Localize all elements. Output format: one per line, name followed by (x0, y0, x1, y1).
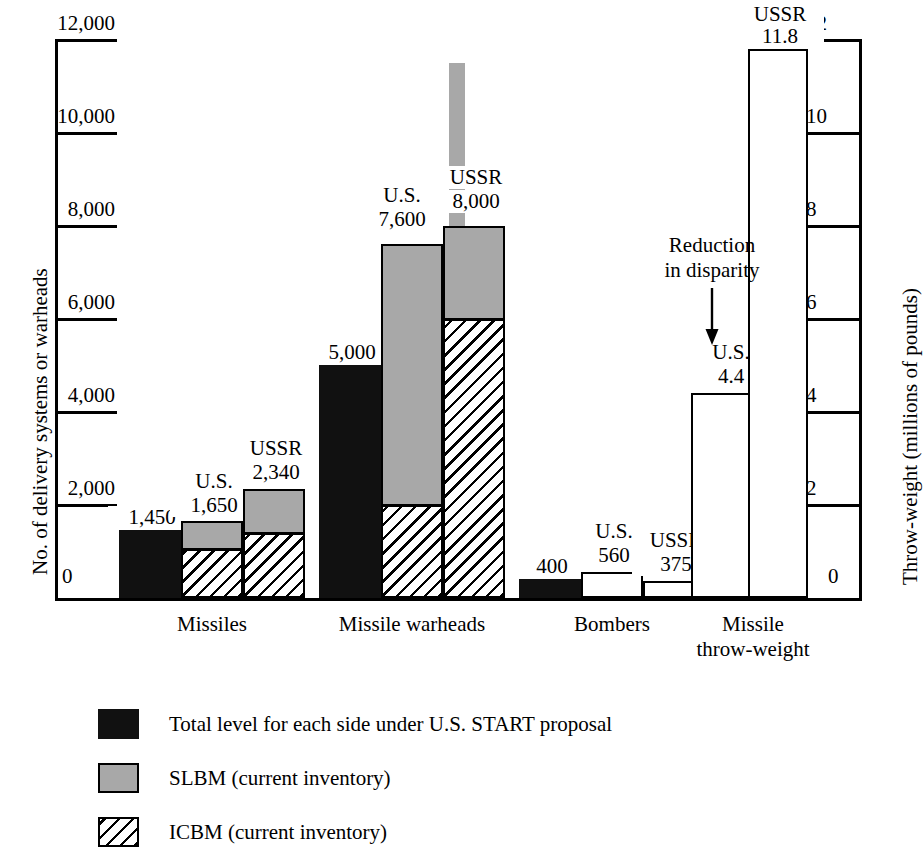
left-tick-8000 (55, 225, 117, 228)
left-tick-label-6000: 6,000 (0, 292, 115, 313)
legend-swatch-hatch (98, 817, 139, 847)
label-warheads-ussr-side: USSR (432, 166, 520, 189)
left-tick-6000 (55, 318, 117, 321)
left-tick-label-0: 0 (62, 566, 92, 587)
label-missiles-ussr-side: USSR (232, 437, 320, 460)
right-tick-10 (800, 132, 862, 135)
left-axis-title: No. of delivery systems or warheads (28, 268, 53, 575)
bar-warheads-us-slbm[interactable] (381, 244, 443, 506)
bar-missiles-us-icbm[interactable] (181, 549, 243, 598)
legend-item-slbm[interactable]: SLBM (current inventory) (98, 763, 391, 793)
left-tick-label-2000: 2,000 (0, 478, 115, 499)
legend-swatch-gray (98, 763, 139, 793)
right-tick-label-0: 0 (828, 566, 839, 587)
right-axis-title: Throw-weight (millions of pounds) (898, 288, 923, 585)
right-axis-line (859, 41, 862, 601)
category-label-missiles: Missiles (119, 612, 305, 637)
label-throwweight-ussr-value: 11.8 (736, 25, 824, 48)
right-tick-6 (800, 318, 862, 321)
annotation-reduction-line2: in disparity (622, 258, 802, 283)
bar-warheads-start[interactable] (319, 365, 381, 598)
right-tick-2 (800, 504, 862, 507)
left-tick-label-8000: 8,000 (0, 199, 115, 220)
bar-missiles-ussr-icbm[interactable] (243, 533, 305, 598)
legend-item-icbm[interactable]: ICBM (current inventory) (98, 817, 387, 847)
left-tick-label-12000: 12,000 (0, 13, 115, 34)
bar-throwweight-ussr[interactable] (748, 49, 808, 598)
bar-missiles-start[interactable] (119, 530, 181, 598)
label-missiles-ussr-value: 2,340 (228, 461, 324, 484)
right-tick-4 (800, 411, 862, 414)
bar-warheads-us-icbm[interactable] (381, 505, 443, 598)
legend-label-slbm: SLBM (current inventory) (169, 766, 391, 790)
right-tick-label-10: 10 (806, 106, 827, 127)
left-tick-label-10000: 10,000 (0, 106, 115, 127)
legend-label-start: Total level for each side under U.S. STA… (169, 712, 612, 736)
left-tick-12000 (55, 39, 117, 42)
label-warheads-ussr-value: 8,000 (428, 190, 524, 213)
legend-label-icbm: ICBM (current inventory) (169, 820, 387, 844)
bar-missiles-us-slbm[interactable] (181, 521, 243, 550)
legend-item-start[interactable]: Total level for each side under U.S. STA… (98, 709, 612, 739)
category-label-throwweight-line2: throw-weight (660, 637, 846, 662)
baseline-axis (55, 598, 862, 601)
label-throwweight-ussr-side: USSR (736, 3, 824, 26)
bar-warheads-ussr-icbm[interactable] (443, 319, 505, 598)
annotation-reduction-line1: Reduction (622, 233, 802, 258)
left-tick-4000 (55, 411, 117, 414)
bar-bombers-start[interactable] (519, 579, 581, 598)
left-tick-10000 (55, 132, 117, 135)
left-tick-label-4000: 4,000 (0, 385, 115, 406)
right-tick-8 (800, 225, 862, 228)
bar-missiles-ussr-slbm[interactable] (243, 489, 305, 534)
bar-warheads-ussr-slbm[interactable] (443, 226, 505, 320)
category-label-throwweight-line1: Missile (660, 612, 846, 637)
category-label-warheads: Missile warheads (299, 612, 525, 637)
down-arrow-icon (700, 288, 724, 346)
legend-swatch-black (98, 709, 139, 739)
